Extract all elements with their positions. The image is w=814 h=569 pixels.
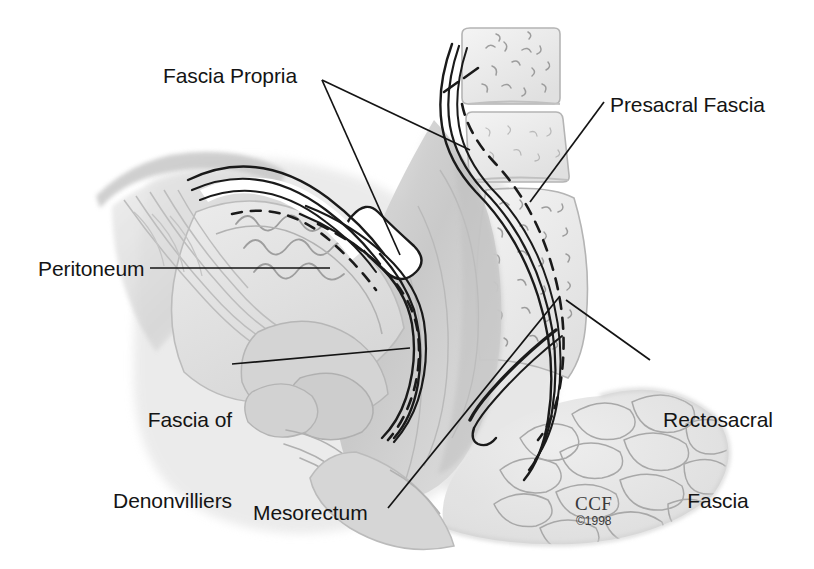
label-fascia-of-denonvilliers-line1: Fascia of [108,406,232,433]
label-rectosacral-fascia: Rectosacral Fascia [655,352,781,541]
signature-copyright: ©1998 [575,514,612,528]
signature-mark: CCF [575,493,612,515]
label-fascia-propria: Fascia Propria [163,63,297,88]
label-rectosacral-fascia-line2: Fascia [655,487,781,514]
label-peritoneum: Peritoneum [38,256,144,281]
label-fascia-of-denonvilliers-line2: Denonvilliers [108,487,232,514]
artist-signature: CCF ©1998 [575,493,612,528]
label-mesorectum: Mesorectum [253,500,368,525]
label-fascia-of-denonvilliers: Fascia of Denonvilliers [108,352,232,541]
label-presacral-fascia: Presacral Fascia [610,92,765,117]
label-rectosacral-fascia-line1: Rectosacral [655,406,781,433]
